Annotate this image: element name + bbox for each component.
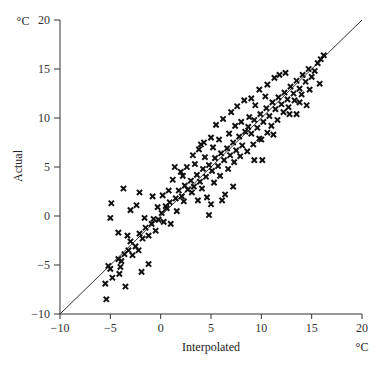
data-point-marker [128,208,133,213]
data-point-marker [103,281,108,286]
data-point-marker [285,97,290,102]
x-axis-unit: °C [356,340,369,354]
data-point-marker [263,94,268,99]
data-point-marker [195,198,200,203]
data-point-marker [227,131,232,136]
data-point-marker [267,113,272,118]
y-axis-title: Actual [11,149,25,182]
data-point-marker [281,110,286,115]
data-point-marker [204,195,209,200]
data-point-marker [172,164,177,169]
data-point-marker [255,125,260,130]
data-point-marker [288,84,293,89]
scatter-chart: −10−505101520−10−505101520 Interpolated … [0,0,383,365]
data-point-marker [210,145,215,150]
data-point-marker [235,104,240,109]
data-point-marker [203,174,208,179]
data-point-marker [306,66,311,71]
data-point-marker [239,119,244,124]
data-point-marker [170,177,175,182]
data-point-marker [130,253,135,258]
data-point-marker [197,179,202,184]
data-point-marker [269,123,274,128]
data-point-marker [272,75,277,80]
data-point-marker [200,166,205,171]
data-point-marker [252,117,257,122]
data-point-marker [245,149,250,154]
data-point-marker [271,132,276,137]
data-point-marker [128,239,133,244]
data-point-marker [166,188,171,193]
data-point-marker [104,297,109,302]
data-point-marker [294,111,299,116]
data-point-marker [312,68,317,73]
data-point-marker [109,201,114,206]
data-point-marker [249,131,254,136]
data-point-marker [237,134,242,139]
data-point-marker [110,275,115,280]
data-point-marker [218,151,223,156]
x-tick-label: 10 [255,321,267,335]
data-point-marker [199,186,204,191]
data-point-marker [202,155,207,160]
data-point-marker [265,130,270,135]
data-point-marker [282,90,287,95]
data-point-marker [304,103,309,108]
data-point-marker [228,153,233,158]
data-point-marker [208,202,213,207]
y-tick-label: 0 [44,209,50,223]
data-point-marker [206,212,211,217]
data-point-marker [234,148,239,153]
data-point-marker [209,168,214,173]
data-point-marker [247,114,252,119]
data-point-marker [191,184,196,189]
x-tick-label: 20 [356,321,368,335]
data-point-marker [309,74,314,79]
data-point-marker [252,158,257,163]
data-point-marker [168,221,173,226]
axes: −10−505101520−10−505101520 [31,13,368,335]
y-tick-label: 5 [44,160,50,174]
data-point-marker [253,103,258,108]
data-point-marker [279,102,284,107]
data-point-marker [216,137,221,142]
data-point-marker [233,123,238,128]
data-point-marker [190,153,195,158]
data-point-marker [265,82,270,87]
data-point-marker [276,95,281,100]
data-point-marker [150,194,155,199]
data-point-marker [229,110,234,115]
x-axis-title: Interpolated [182,340,240,354]
y-tick-label: −5 [37,258,50,272]
data-point-marker [123,284,128,289]
data-point-marker [291,91,296,96]
data-point-marker [211,180,216,185]
x-tick-label: 15 [306,321,318,335]
data-point-marker [142,215,147,220]
data-point-marker [297,86,302,91]
data-point-marker [270,100,275,105]
data-point-marker [155,205,160,210]
data-point-marker [222,192,227,197]
data-point-marker [283,70,288,75]
y-tick-label: 20 [38,13,50,27]
data-point-marker [231,140,236,145]
data-point-marker [125,233,130,238]
data-point-marker [258,111,263,116]
data-point-marker [251,142,256,147]
data-point-marker [220,116,225,121]
data-point-marker [173,196,178,201]
data-point-marker [192,161,197,166]
data-point-marker [257,87,262,92]
data-point-marker [176,188,181,193]
data-point-marker [286,105,291,110]
data-point-marker [137,231,142,236]
data-point-marker [240,143,245,148]
y-tick-label: 10 [38,111,50,125]
data-point-marker [153,228,158,233]
data-point-marker [121,186,126,191]
data-point-marker [300,72,305,77]
data-point-marker [294,78,299,83]
x-tick-label: −10 [51,321,70,335]
data-point-marker [117,271,122,276]
